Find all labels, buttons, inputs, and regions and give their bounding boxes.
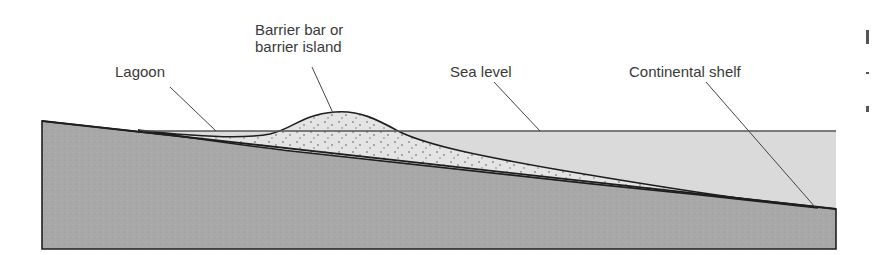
label-barrier-island: Barrier bar or barrier island: [255, 21, 343, 55]
cropped-edge-mark: [866, 72, 869, 74]
label-sea-level: Sea level: [450, 63, 512, 80]
label-lagoon: Lagoon: [115, 63, 165, 80]
barrier-island-diagram: Lagoon Barrier bar or barrier island Sea…: [0, 0, 872, 255]
label-barrier-line2: barrier island: [255, 38, 343, 55]
leader-lagoon: [170, 87, 216, 131]
leader-barrier-island: [312, 67, 333, 113]
label-barrier-line1: Barrier bar or: [255, 21, 343, 38]
label-continental-shelf: Continental shelf: [629, 63, 741, 80]
cropped-edge-mark: [866, 30, 869, 44]
cropped-edge-mark: [866, 106, 869, 112]
leader-sea-level: [494, 82, 540, 131]
